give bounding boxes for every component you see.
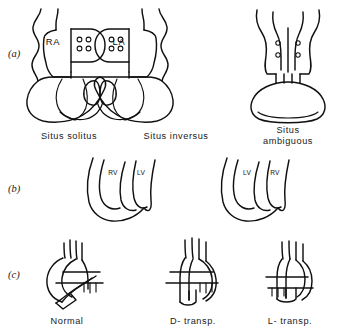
pulmonary-trunk-arch	[302, 261, 312, 300]
row-a: (a)	[8, 9, 325, 146]
pulmonary-vein-ostia	[77, 37, 91, 51]
panel-great-vessels-d-transp	[166, 238, 218, 305]
pv-ostium	[77, 46, 82, 51]
carotid-branch	[192, 238, 193, 258]
chamber-label-ra: RA	[46, 36, 61, 47]
rv-inner-wall	[100, 160, 120, 209]
midline-liver-inner-edge	[258, 112, 318, 118]
row-c: (c)	[8, 238, 313, 326]
aortic-arch-outer	[47, 258, 63, 302]
panel-label-situs-ambiguous-line1: Situs	[276, 125, 299, 135]
pv-ostium	[86, 46, 91, 51]
panel-situs-ambiguous	[251, 10, 325, 123]
aorta-anterior-left-wall	[180, 258, 185, 302]
panel-ventricular-l-loop: LV RV	[222, 158, 289, 221]
panel-label-l-transp: L- transp.	[268, 316, 312, 326]
brachiocephalic-branch	[185, 240, 186, 258]
right-atrium-outline	[129, 30, 156, 77]
midline-liver-outline	[251, 82, 325, 123]
caval-vein-outline	[32, 9, 41, 81]
lv-outer-wall	[144, 160, 155, 211]
panel-label-situs-inversus: Situs inversus	[144, 131, 209, 141]
brachiocephalic-branch	[64, 243, 65, 258]
panel-situs-inversus	[84, 9, 173, 122]
liver-fissure	[124, 79, 144, 120]
svc-medial-wall	[142, 9, 144, 30]
row-b: (b) RV LV	[8, 158, 289, 221]
lv-inner-wall	[234, 160, 254, 209]
vent-label-right: RV	[270, 169, 280, 176]
panel-ventricular-d-loop: RV LV	[88, 158, 155, 221]
carotid-branch	[289, 241, 290, 259]
pv-ostium	[296, 53, 300, 57]
row-c-tag: (c)	[8, 269, 20, 281]
ventricular-outflow-base	[180, 290, 196, 305]
lv-outer-wall	[222, 158, 278, 221]
subclavian-branch	[76, 241, 77, 259]
pv-ostium	[276, 53, 280, 57]
panel-great-vessels-l-transp	[266, 241, 313, 302]
panel-label-situs-ambiguous-line2: ambiguous	[263, 136, 313, 146]
carotid-branch	[70, 240, 71, 258]
brachiocephalic-branch	[282, 242, 283, 259]
vent-label-left: RV	[108, 169, 118, 176]
rv-outer-wall	[278, 160, 289, 211]
liver-fissure	[56, 79, 76, 120]
panel-label-d-transp: D- transp.	[170, 316, 216, 326]
svc-medial-wall	[56, 9, 58, 30]
pulmonary-trunk-arch-inner	[296, 260, 305, 297]
row-b-tag: (b)	[8, 183, 21, 195]
pv-ostium	[86, 37, 91, 42]
panel-label-normal: Normal	[51, 316, 84, 326]
vent-label-left: LV	[243, 169, 251, 176]
cardiac-situs-figure: (a)	[0, 0, 340, 331]
row-a-tag: (a)	[8, 48, 21, 60]
panel-great-vessels-normal	[47, 240, 103, 309]
outflow-crossing-limb	[62, 276, 96, 302]
caval-vein-outline	[159, 9, 168, 81]
pv-ostium	[77, 37, 82, 42]
rv-outer-wall	[88, 158, 144, 221]
vent-label-right: LV	[137, 169, 145, 176]
panel-label-situs-solitus: Situs solitus	[41, 131, 97, 141]
